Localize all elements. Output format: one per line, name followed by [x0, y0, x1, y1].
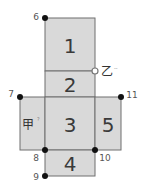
- face-jia-note: ?: [37, 116, 40, 122]
- point-10-dot: [92, 147, 98, 153]
- point-11-dot: [118, 94, 124, 100]
- point-8-dot: [42, 147, 48, 153]
- cube-net-diagram: 1 2 3 4 5 甲 ? 乙 -- 6 7 8 9 10 11: [0, 0, 149, 192]
- face-3-label: 3: [64, 113, 77, 137]
- point-7-label: 7: [8, 89, 14, 99]
- face-jia-label: 甲: [22, 118, 34, 132]
- point-yi-label: 乙: [101, 65, 113, 79]
- face-2-label: 2: [64, 73, 77, 97]
- point-9-dot: [42, 173, 48, 179]
- point-11-label: 11: [126, 90, 137, 100]
- point-8-label: 8: [33, 153, 39, 163]
- face-4-label: 4: [64, 152, 77, 176]
- point-6-label: 6: [33, 12, 39, 22]
- face-1-label: 1: [64, 34, 77, 58]
- point-yi-marker: [92, 68, 98, 74]
- point-yi-note: --: [114, 65, 118, 71]
- point-6-dot: [42, 15, 48, 21]
- point-7-dot: [17, 94, 23, 100]
- point-10-label: 10: [99, 153, 111, 163]
- point-9-label: 9: [33, 172, 39, 182]
- face-5-label: 5: [102, 113, 115, 137]
